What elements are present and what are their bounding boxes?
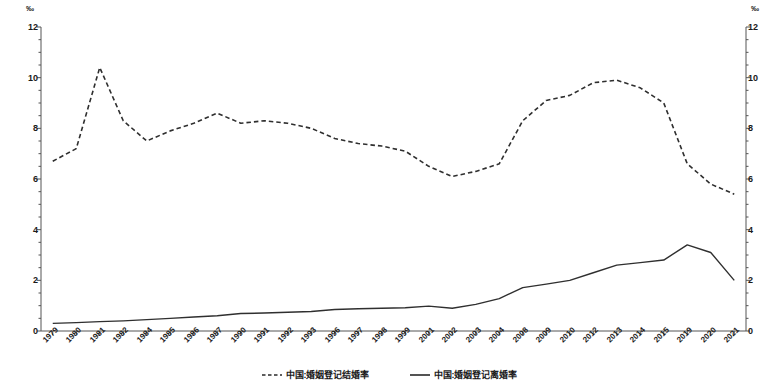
y-axis-right-unit: ‰: [751, 4, 759, 13]
y-tick-label-left-6: 6: [18, 175, 38, 184]
y-tick-label-left-2: 2: [18, 276, 38, 285]
y-tick-label-left-10: 10: [18, 74, 38, 83]
y-tick-label-right-0: 0: [748, 327, 768, 336]
y-tick-label-left-12: 12: [18, 23, 38, 32]
chart-legend: 中国:婚姻登记结婚率中国:婚姻登记离婚率: [0, 368, 779, 381]
dashed-line-icon: [262, 371, 282, 379]
legend-item-1[interactable]: 中国:婚姻登记结婚率: [262, 368, 370, 381]
chart-container: ‰ ‰ 121086420 121086420 1979198019811982…: [0, 0, 779, 391]
y-tick-label-right-10: 10: [748, 74, 768, 83]
y-tick-label-right-12: 12: [748, 23, 768, 32]
legend-label-1: 中国:婚姻登记结婚率: [286, 368, 370, 381]
y-tick-label-right-4: 4: [748, 226, 768, 235]
y-axis-right: 121086420: [748, 22, 774, 332]
y-tick-label-left-4: 4: [18, 226, 38, 235]
solid-line-icon: [410, 371, 430, 379]
series-line-2: [53, 245, 735, 324]
y-tick-label-left-0: 0: [18, 327, 38, 336]
series-line-1: [53, 68, 735, 195]
y-tick-label-left-8: 8: [18, 124, 38, 133]
legend-label-2: 中国:婚姻登记离婚率: [434, 368, 518, 381]
y-tick-label-right-8: 8: [748, 124, 768, 133]
y-tick-label-right-2: 2: [748, 276, 768, 285]
series-layer: [53, 68, 735, 324]
y-axis-left: 121086420: [12, 22, 38, 332]
y-tick-label-right-6: 6: [748, 175, 768, 184]
y-axis-left-unit: ‰: [26, 4, 34, 13]
legend-item-2[interactable]: 中国:婚姻登记离婚率: [410, 368, 518, 381]
axis-lines: [41, 27, 746, 331]
